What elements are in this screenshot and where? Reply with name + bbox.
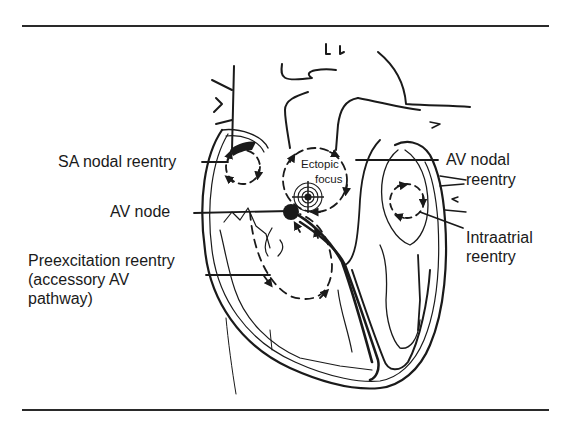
label-av-nodal-line1: AV nodal	[446, 150, 510, 169]
label-preexcitation-line2: (accessory AV	[28, 270, 129, 289]
sa-reentry-circuit	[226, 150, 260, 184]
label-intraatrial-line2: reentry	[466, 247, 516, 266]
sa-node-icon	[230, 141, 256, 156]
his-bundle	[292, 212, 372, 362]
heart-illustration	[0, 0, 570, 421]
label-preexcitation-line1: Preexcitation reentry	[28, 251, 175, 270]
label-ectopic-line1: Ectopic	[301, 157, 339, 172]
intraatrial-circuit	[390, 184, 424, 218]
label-ectopic-line2: focus	[315, 172, 343, 187]
label-intraatrial-line1: Intraatrial	[466, 228, 533, 247]
label-preexcitation-line3: pathway)	[28, 289, 93, 308]
left-chambers	[380, 150, 428, 348]
label-av-node: AV node	[110, 202, 170, 221]
label-av-nodal-line2: reentry	[466, 170, 516, 189]
inferior-vena-cava	[226, 318, 236, 394]
av-node-icon	[283, 204, 299, 220]
label-sa-nodal-reentry: SA nodal reentry	[58, 152, 176, 171]
heart-arrhythmia-diagram: SA nodal reentry AV node Preexcitation r…	[0, 0, 570, 421]
right-ventricle-lining	[220, 208, 372, 370]
preexcitation-circuit	[250, 212, 332, 299]
